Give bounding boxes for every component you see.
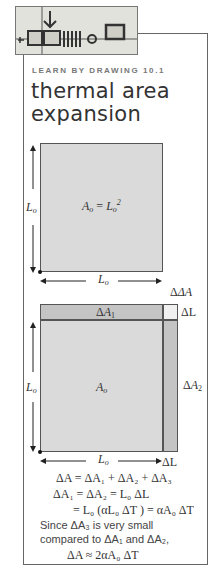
side-label-vertical-2: Lo <box>26 380 37 395</box>
delta-a3-label: ΔΔA <box>170 285 192 300</box>
side-label-horizontal-2: Lo <box>98 452 109 467</box>
title-line-1: thermal area <box>31 80 170 103</box>
circuit-sketch-icon <box>16 7 138 55</box>
origin-dot-2 <box>38 450 42 454</box>
side-label-horizontal: Lo <box>98 272 109 287</box>
note-line-2: compared to ΔA₁ and ΔA₂, <box>40 533 169 545</box>
side-label-vertical: Lo <box>26 200 37 215</box>
delta-l-bottom-label: ΔL <box>162 455 177 470</box>
area-formula-label: Ao = Lo2 <box>82 198 121 214</box>
page-title: thermal area expansion <box>31 80 170 126</box>
delta-l-top-label: ΔL <box>181 305 196 320</box>
area-label: Ao <box>96 380 107 395</box>
delta-a1-label: ΔA1 <box>96 305 115 320</box>
sketch-header-image <box>15 6 138 55</box>
section-kicker: LEARN BY DRAWING 10.1 <box>32 66 165 75</box>
delta-a2-label: ΔA2 <box>183 378 202 393</box>
title-line-2: expansion <box>31 103 170 126</box>
equation-strips: ΔA₁ = ΔA₂ = L₀ ΔL <box>53 487 149 502</box>
delta-a3-corner <box>163 304 178 320</box>
equation-expansion: = L₀ (αL₀ ΔT ) = αA₀ ΔT <box>73 503 194 518</box>
equation-result: ΔA ≈ 2αA₀ ΔT <box>67 548 139 563</box>
note-line-1: Since ΔA₃ is very small <box>40 519 153 531</box>
origin-dot <box>38 270 42 274</box>
delta-a2-strip <box>163 320 178 452</box>
equation-total: ΔA = ΔA₁ + ΔA₂ + ΔA₃ <box>56 471 172 486</box>
